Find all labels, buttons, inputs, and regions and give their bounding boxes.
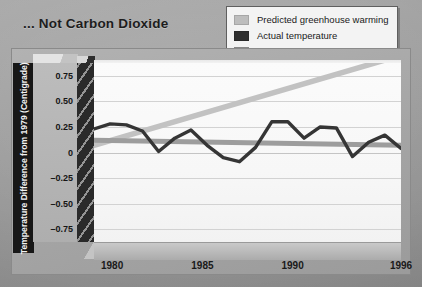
x-axis-tick-label: 1985 [191, 260, 213, 271]
series-line-predicted-greenhouse-warming [94, 63, 401, 145]
chart: Temperature Difference from 1979 (Centig… [11, 48, 411, 275]
x-axis-tick-label: 1990 [281, 260, 303, 271]
legend-label-predicted: Predicted greenhouse warming [257, 14, 389, 25]
legend-swatch-actual-icon [234, 31, 249, 41]
y-axis-tick-label: –0.75 [33, 224, 78, 234]
series-line-trendline [94, 140, 401, 145]
y-axis-tick-label: 0.50 [33, 96, 78, 106]
legend-item-actual-temperature: Actual temperature [234, 28, 391, 43]
y-tick-band: 0.750.500.250–0.25–0.50–0.75 [33, 63, 78, 242]
plot-floor [94, 242, 401, 260]
legend-item-predicted-greenhouse-warming: Predicted greenhouse warming [234, 12, 391, 27]
y-axis-tick-label: –0.50 [33, 199, 78, 209]
slide-canvas: ... Not Carbon Dioxide Predicted greenho… [0, 0, 422, 287]
y-axis-title: Temperature Difference from 1979 (Centig… [13, 63, 34, 253]
y-axis-tick-label: 0.75 [33, 71, 78, 81]
legend-label-actual: Actual temperature [257, 30, 337, 41]
plot-left-wall-hatch [77, 63, 95, 242]
chart-series-layer [94, 63, 401, 242]
y-axis-tick-label: 0 [33, 148, 78, 158]
y-axis-title-text: Temperature Difference from 1979 (Centig… [18, 62, 29, 254]
x-axis-tick-label: 1980 [101, 260, 123, 271]
legend-swatch-predicted-icon [234, 15, 249, 25]
page-title: ... Not Carbon Dioxide [23, 16, 168, 31]
plot-left-wall [77, 63, 95, 242]
plot-area [94, 63, 401, 242]
y-axis-tick-label: –0.25 [33, 173, 78, 183]
x-axis-tick-label: 1996 [390, 260, 412, 271]
y-axis-tick-label: 0.25 [33, 122, 78, 132]
